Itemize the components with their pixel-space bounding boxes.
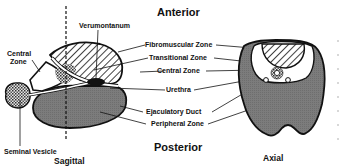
verumontanum-label: Verumontanum [79,22,130,29]
seminal-vesicle-shape [6,83,30,108]
ejaculatory-duct-label: Ejaculatory Duct [146,108,201,115]
axial-urethra [274,70,279,75]
urethra-label: Urethra [166,86,191,93]
axial-caption: Axial [263,154,283,163]
central-zone-label: Central Zone [157,67,200,74]
right-edge-artifact [337,40,340,160]
sagittal-caption: Sagittal [54,157,85,166]
anterior-label: Anterior [157,7,200,18]
axial-view [239,40,325,136]
seminal-vesicle-label: Seminal Vesicle [4,148,57,155]
peripheral-zone-label: Peripheral Zone [151,120,204,127]
verumontanum-shape [87,78,105,86]
fibromuscular-zone-label: Fibromuscular Zone [145,41,212,48]
transitional-zone-label: Transitional Zone [149,54,207,61]
axial-ejaculatory-duct-left [264,78,269,83]
central-zone-side-label-line1: Central [7,50,31,57]
central-zone-side-label-line2: Zone [10,58,27,65]
prostate-zone-diagram: Anterior Posterior Verumontanum Central … [0,0,344,167]
axial-ejaculatory-duct-right [286,78,291,83]
posterior-label: Posterior [154,142,202,153]
